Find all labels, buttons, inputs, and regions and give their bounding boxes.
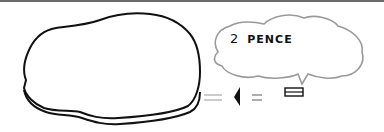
coin-edge-rectangle-icon xyxy=(285,88,303,96)
unit-label: PENCE xyxy=(247,33,292,46)
coin-blob-icon xyxy=(24,13,200,118)
amount-value: 2 xyxy=(230,31,239,46)
speech-bubble-icon xyxy=(215,15,363,84)
left-pointing-triangle-icon xyxy=(234,87,240,106)
sketch-drawing xyxy=(0,0,384,132)
bubble-text: 2PENCE xyxy=(230,31,293,46)
sketch-canvas: 2PENCE xyxy=(0,0,384,132)
